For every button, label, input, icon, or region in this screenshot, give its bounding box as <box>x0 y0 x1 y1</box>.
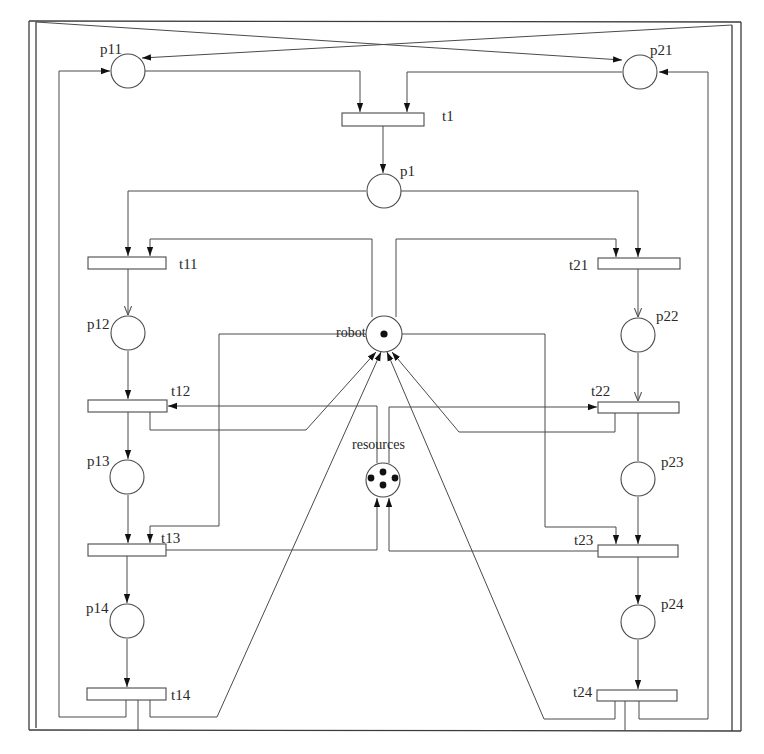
place-p1[interactable] <box>367 174 401 208</box>
transition-t11[interactable] <box>88 257 166 269</box>
arc-resources-t22 <box>389 407 597 463</box>
transition-t12[interactable] <box>88 400 167 412</box>
arc-t14-robot <box>150 352 381 717</box>
place-p23[interactable] <box>621 462 655 496</box>
arc-p21-t1 <box>407 72 622 112</box>
label-robot: robot <box>336 325 366 340</box>
arc-t22-robot <box>392 352 615 432</box>
arc-p1-t21 <box>401 191 638 257</box>
arc-resources-t12 <box>168 406 377 463</box>
transition-t24[interactable] <box>597 690 677 701</box>
label-p22: p22 <box>656 308 679 324</box>
label-resources: resources <box>352 437 405 452</box>
label-t22: t22 <box>591 383 610 399</box>
label-t14: t14 <box>171 687 191 703</box>
label-t12: t12 <box>171 383 190 399</box>
place-p13[interactable] <box>110 460 144 494</box>
label-t21: t21 <box>569 257 588 273</box>
label-p21: p21 <box>650 42 673 58</box>
place-resources[interactable] <box>366 463 400 497</box>
petri-net-diagram: p11 p21 t1 p1 t11 t21 p12 robot p22 t12 … <box>0 0 764 754</box>
label-t11: t11 <box>179 256 198 272</box>
label-p11: p11 <box>100 41 122 57</box>
label-t1: t1 <box>442 108 454 124</box>
place-p21[interactable] <box>623 55 657 89</box>
token <box>392 475 399 482</box>
place-p11[interactable] <box>111 54 145 88</box>
place-robot[interactable] <box>366 316 402 352</box>
label-t23: t23 <box>574 532 593 548</box>
arc-robot-t23 <box>402 334 616 544</box>
arc-robot-t11 <box>150 239 372 317</box>
token <box>368 475 375 482</box>
place-p22[interactable] <box>621 318 655 352</box>
arc-p11-t1 <box>145 71 360 112</box>
transition-t22[interactable] <box>598 402 679 413</box>
transition-t13[interactable] <box>88 544 166 556</box>
transition-t21[interactable] <box>598 258 680 269</box>
label-t13: t13 <box>161 530 180 546</box>
cross-arcs <box>36 22 732 60</box>
label-t24: t24 <box>573 684 593 700</box>
transition-t14[interactable] <box>87 688 166 700</box>
label-p1: p1 <box>400 163 415 179</box>
transition-t1[interactable] <box>342 113 424 126</box>
place-p14[interactable] <box>110 604 144 638</box>
arc-t23-resources <box>389 498 598 551</box>
label-p12: p12 <box>87 316 110 332</box>
token <box>380 482 387 489</box>
token <box>380 469 387 476</box>
label-p23: p23 <box>661 454 684 470</box>
label-p24: p24 <box>661 596 684 612</box>
arc-t13-resources <box>166 498 377 550</box>
transition-t23[interactable] <box>598 545 678 557</box>
place-p12[interactable] <box>111 316 145 350</box>
token <box>380 330 387 337</box>
label-p13: p13 <box>87 453 110 469</box>
label-p14: p14 <box>86 600 109 616</box>
arc-robot-t21 <box>396 239 616 317</box>
arc-robot-t13 <box>150 334 366 543</box>
arc-p1-t11 <box>128 191 366 256</box>
place-p24[interactable] <box>621 605 655 639</box>
